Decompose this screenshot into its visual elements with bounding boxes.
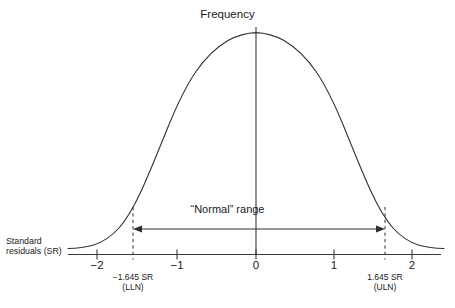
lower-limit-value: −1.645 SR xyxy=(113,272,153,282)
tick-label-2: 2 xyxy=(392,259,432,273)
normal-range-annotation: “Normal” range xyxy=(0,203,455,216)
upper-limit-abbreviation: (ULN) xyxy=(330,282,440,292)
normal-range-arrow-head-left xyxy=(133,226,142,233)
normal-distribution-plot xyxy=(0,0,455,308)
upper-limit-marker-label: 1.645 SR (ULN) xyxy=(330,272,440,292)
normal-range-arrow-head-right xyxy=(376,226,385,233)
tick-label--2: −2 xyxy=(77,259,117,273)
frequency-axis-title: Frequency xyxy=(0,8,455,22)
x-axis-title-line-2: residuals (SR) xyxy=(6,246,62,256)
lower-limit-marker-label: −1.645 SR (LLN) xyxy=(78,272,188,292)
x-axis-title-line-1: Standard xyxy=(6,236,42,246)
tick-label-1: 1 xyxy=(314,259,354,273)
upper-limit-value: 1.645 SR xyxy=(367,272,402,282)
tick-label-0: 0 xyxy=(236,259,276,273)
figure-container: Frequency “Normal” range Standard residu… xyxy=(0,0,455,308)
lower-limit-abbreviation: (LLN) xyxy=(78,282,188,292)
x-axis-title: Standard residuals (SR) xyxy=(6,236,62,257)
tick-label--1: −1 xyxy=(157,259,197,273)
